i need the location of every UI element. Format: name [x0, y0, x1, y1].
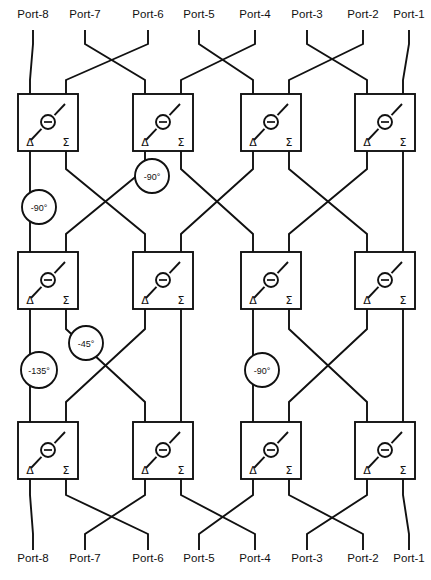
phase-shifter: -45° — [69, 326, 103, 360]
minus-in-circle-icon — [264, 443, 278, 457]
top-port-label-5: Port-4 — [239, 8, 271, 20]
wire-top-Port-5 — [199, 30, 253, 94]
top-port-label-8: Port-1 — [393, 8, 424, 20]
coupler-sigma-label: Σ — [286, 294, 293, 307]
coupler-delta-label: Δ — [249, 136, 257, 149]
coupler-sigma-label: Σ — [178, 464, 185, 477]
coupler-sigma-label: Σ — [400, 294, 407, 307]
bottom-port-label-2: Port-7 — [69, 552, 100, 564]
phase-shifter: -90° — [22, 190, 56, 224]
coupler-delta-label: Δ — [363, 294, 371, 307]
wire-bot-Port-5 — [199, 479, 253, 550]
wire-top-Port-6 — [66, 30, 148, 94]
wire-top-Port-7 — [85, 30, 145, 94]
bottom-port-label-8: Port-1 — [393, 552, 424, 564]
butler-matrix-diagram: ΔΣΔΣΔΣΔΣΔΣΔΣΔΣΔΣΔΣΔΣΔΣΔΣ -90°-90°-135°-4… — [0, 0, 431, 580]
wire-top-Port-8 — [30, 30, 33, 94]
coupler-delta-label: Δ — [26, 136, 34, 149]
top-port-label-7: Port-2 — [347, 8, 378, 20]
coupler-delta-label: Δ — [363, 464, 371, 477]
minus-in-circle-icon — [41, 115, 55, 129]
wire-bot-Port-3 — [307, 479, 367, 550]
coupler-delta-label: Δ — [249, 294, 257, 307]
wires-layer — [30, 30, 409, 550]
wire-bot-Port-7 — [85, 479, 145, 550]
hybrid-coupler: ΔΣ — [133, 252, 193, 309]
coupler-delta-label: Δ — [249, 464, 257, 477]
coupler-sigma-label: Σ — [63, 294, 70, 307]
hybrid-coupler: ΔΣ — [241, 252, 301, 309]
bottom-port-label-7: Port-2 — [347, 552, 378, 564]
coupler-sigma-label: Σ — [178, 136, 185, 149]
wire-bot-Port-4 — [181, 479, 255, 550]
phase-shifter-label: -135° — [28, 366, 50, 376]
minus-in-circle-icon — [264, 273, 278, 287]
wire-top-Port-3 — [307, 30, 367, 94]
top-port-label-1: Port-8 — [17, 8, 48, 20]
minus-in-circle-icon — [41, 443, 55, 457]
top-port-label-6: Port-3 — [291, 8, 322, 20]
phase-shifter-label: -90° — [31, 203, 48, 213]
coupler-delta-label: Δ — [141, 464, 149, 477]
hybrid-coupler: ΔΣ — [18, 94, 78, 151]
wire-bot-Port-1 — [403, 479, 409, 550]
wire-top-Port-1 — [403, 30, 409, 94]
top-port-label-3: Port-6 — [132, 8, 163, 20]
phase-shifter: -90° — [245, 353, 279, 387]
coupler-sigma-label: Σ — [63, 136, 70, 149]
minus-in-circle-icon — [378, 115, 392, 129]
phase-shifter: -135° — [21, 352, 57, 388]
coupler-delta-label: Δ — [363, 136, 371, 149]
phase-shifter: -90° — [135, 159, 169, 193]
couplers-layer: ΔΣΔΣΔΣΔΣΔΣΔΣΔΣΔΣΔΣΔΣΔΣΔΣ — [18, 94, 415, 479]
coupler-delta-label: Δ — [26, 294, 34, 307]
top-port-label-2: Port-7 — [69, 8, 100, 20]
top-port-label-4: Port-5 — [183, 8, 214, 20]
hybrid-coupler: ΔΣ — [355, 252, 415, 309]
coupler-delta-label: Δ — [26, 464, 34, 477]
wire-bot-Port-6 — [66, 479, 148, 550]
coupler-sigma-label: Σ — [286, 464, 293, 477]
diagram-canvas: ΔΣΔΣΔΣΔΣΔΣΔΣΔΣΔΣΔΣΔΣΔΣΔΣ -90°-90°-135°-4… — [0, 0, 431, 580]
hybrid-coupler: ΔΣ — [355, 422, 415, 479]
wire-c1-4d-c2-3s — [289, 151, 367, 252]
phase-shifter-label: -45° — [78, 339, 95, 349]
bottom-port-label-5: Port-4 — [239, 552, 271, 564]
coupler-sigma-label: Σ — [400, 136, 407, 149]
hybrid-coupler: ΔΣ — [241, 422, 301, 479]
coupler-sigma-label: Σ — [63, 464, 70, 477]
bottom-port-label-1: Port-8 — [17, 552, 48, 564]
coupler-sigma-label: Σ — [178, 294, 185, 307]
wire-top-Port-2 — [289, 30, 363, 94]
minus-in-circle-icon — [156, 443, 170, 457]
hybrid-coupler: ΔΣ — [133, 94, 193, 151]
phase-shifter-label: -90° — [254, 366, 271, 376]
minus-in-circle-icon — [378, 443, 392, 457]
wire-c1-3d-c2-2s — [181, 151, 253, 252]
wire-c2-4d-c3-3s — [289, 309, 367, 422]
minus-in-circle-icon — [156, 273, 170, 287]
bottom-port-label-3: Port-6 — [132, 552, 163, 564]
hybrid-coupler: ΔΣ — [241, 94, 301, 151]
hybrid-coupler: ΔΣ — [133, 422, 193, 479]
coupler-delta-label: Δ — [141, 294, 149, 307]
minus-in-circle-icon — [378, 273, 392, 287]
coupler-sigma-label: Σ — [400, 464, 407, 477]
minus-in-circle-icon — [156, 115, 170, 129]
bottom-port-label-6: Port-3 — [291, 552, 322, 564]
minus-in-circle-icon — [41, 273, 55, 287]
hybrid-coupler: ΔΣ — [355, 94, 415, 151]
coupler-delta-label: Δ — [141, 136, 149, 149]
minus-in-circle-icon — [264, 115, 278, 129]
wire-c2-2d-c3-1s — [66, 309, 145, 422]
wire-c1-2d-c2-1s — [66, 151, 145, 252]
hybrid-coupler: ΔΣ — [18, 422, 78, 479]
coupler-sigma-label: Σ — [286, 136, 293, 149]
phase-shifter-label: -90° — [144, 172, 161, 182]
wire-bot-Port-2 — [289, 479, 363, 550]
wire-top-Port-4 — [181, 30, 255, 94]
hybrid-coupler: ΔΣ — [18, 252, 78, 309]
bottom-port-label-4: Port-5 — [183, 552, 214, 564]
wire-bot-Port-8 — [30, 479, 33, 550]
